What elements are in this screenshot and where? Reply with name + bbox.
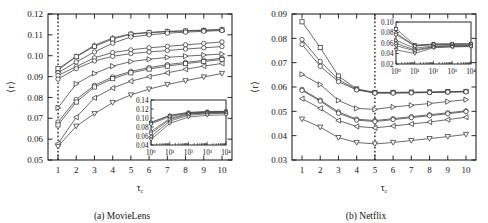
x-tick-label: 2 <box>318 165 323 175</box>
data-point <box>202 46 206 50</box>
data-point <box>128 79 133 84</box>
y-tick-label: 0.07 <box>27 113 43 123</box>
data-point <box>299 96 304 101</box>
data-point <box>183 62 187 66</box>
y-axis-label: ⟨r⟩ <box>250 81 260 92</box>
data-point <box>129 71 133 75</box>
x-tick-label: 3 <box>92 165 97 175</box>
x-axis-label: τc <box>381 183 388 194</box>
data-point <box>147 50 151 54</box>
data-point <box>318 64 322 68</box>
inset-x-tick-label: 10² <box>184 149 193 157</box>
data-point <box>336 79 340 83</box>
data-point <box>92 59 96 63</box>
data-point <box>74 100 78 104</box>
data-point <box>300 20 304 24</box>
data-point <box>373 91 377 95</box>
inset-y-tick-label: 0.12 <box>136 106 149 114</box>
data-point <box>446 99 451 104</box>
data-point <box>165 44 169 48</box>
data-point <box>92 85 96 89</box>
data-point <box>300 88 304 92</box>
inset-x-tick-label: 10⁰ <box>146 149 156 157</box>
data-point <box>111 64 116 69</box>
data-point <box>318 59 322 63</box>
data-point <box>464 97 469 102</box>
plot-movielens: 0.050.060.070.080.090.100.110.1212345678… <box>0 0 244 223</box>
x-tick-label: 4 <box>110 165 115 175</box>
data-point <box>74 60 78 64</box>
series-line <box>58 30 222 72</box>
figure-container: 0.050.060.070.080.090.100.110.1212345678… <box>0 0 488 223</box>
data-point <box>110 41 114 45</box>
data-point <box>202 52 207 57</box>
data-point <box>183 54 188 59</box>
x-tick-label: 1 <box>56 165 61 175</box>
data-point <box>202 59 206 63</box>
data-point <box>56 67 60 71</box>
data-point <box>409 91 413 95</box>
inset-data-point <box>394 33 397 36</box>
y-tick-label: 0.10 <box>27 51 43 61</box>
data-point <box>165 64 169 68</box>
data-point <box>373 119 377 123</box>
x-tick-label: 7 <box>165 165 170 175</box>
data-point <box>74 55 78 59</box>
data-point <box>110 85 115 90</box>
inset-x-tick-label: 10⁰ <box>391 68 401 76</box>
data-point <box>336 98 341 103</box>
inset-y-tick-label: 0.06 <box>381 40 394 48</box>
data-point <box>74 81 79 86</box>
data-point <box>409 121 414 126</box>
data-point <box>111 37 115 41</box>
inset-y-tick-label: 0.14 <box>136 97 149 105</box>
data-point <box>446 90 450 94</box>
data-point <box>391 123 396 128</box>
y-tick-label: 0.04 <box>271 131 287 141</box>
y-tick-label: 0.07 <box>271 58 287 68</box>
data-point <box>165 48 169 52</box>
series-line <box>302 119 466 144</box>
data-point <box>336 111 340 115</box>
data-point <box>111 77 115 81</box>
data-point <box>110 101 115 106</box>
data-point <box>201 64 206 69</box>
x-tick-label: 8 <box>427 165 432 175</box>
inset-x-tick-label: 10¹ <box>165 149 174 157</box>
data-point <box>147 57 152 62</box>
inset-x-tick-label: 10¹ <box>410 68 419 76</box>
x-tick-label: 8 <box>183 165 188 175</box>
data-point <box>354 124 359 129</box>
data-point <box>183 67 188 72</box>
y-tick-label: 0.06 <box>27 134 43 144</box>
inset-y-tick-label: 0.08 <box>381 29 394 37</box>
data-point <box>147 46 151 50</box>
y-tick-label: 0.08 <box>27 93 43 103</box>
x-axis-label: τc <box>137 183 144 194</box>
y-tick-label: 0.05 <box>271 107 287 117</box>
inset-x-tick-label: 10⁴ <box>221 149 231 157</box>
data-point <box>92 44 96 48</box>
data-point <box>464 90 468 94</box>
data-point <box>183 30 187 34</box>
inset-y-tick-label: 0.10 <box>381 19 394 27</box>
y-tick-label: 0.09 <box>271 9 287 19</box>
inset-x-tick-label: 10³ <box>203 149 213 157</box>
data-point <box>129 51 133 55</box>
data-point <box>409 103 414 108</box>
data-point <box>56 123 60 127</box>
data-point <box>300 37 304 41</box>
inset-data-point <box>149 122 152 125</box>
data-point <box>147 33 151 37</box>
data-point <box>427 101 432 106</box>
x-tick-label: 9 <box>202 165 207 175</box>
data-point <box>202 41 206 45</box>
data-point <box>318 106 323 111</box>
data-point <box>445 117 450 122</box>
x-tick-label: 10 <box>217 165 227 175</box>
data-point <box>318 99 322 103</box>
caption-panel-a: (a) MovieLens <box>0 211 244 221</box>
data-point <box>165 31 169 35</box>
series-line <box>58 47 222 80</box>
inset-y-tick-label: 0.04 <box>381 50 394 58</box>
